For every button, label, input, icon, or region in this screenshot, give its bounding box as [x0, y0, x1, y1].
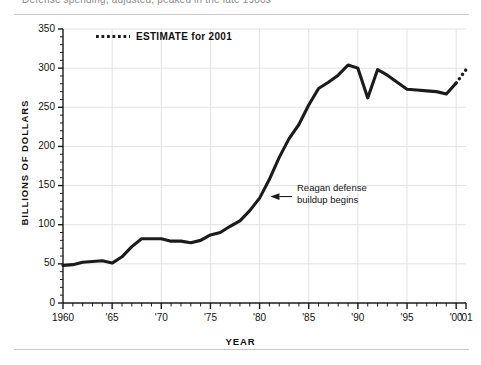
x-tick-label: '85: [289, 312, 329, 323]
gridlines: [63, 29, 466, 303]
y-axis-title: BILLIONS OF DOLLARS: [19, 106, 30, 226]
annotation-line-1: Reagan defense: [297, 182, 367, 194]
y-tick-label: 0: [25, 297, 55, 308]
x-tick-label: 1960: [43, 312, 83, 323]
y-tick-label: 200: [25, 140, 55, 151]
x-tick-label: '95: [387, 312, 427, 323]
legend-label: ESTIMATE for 2001: [136, 31, 232, 42]
annotation-label: Reagan defense buildup begins: [297, 182, 367, 205]
x-tick-label: '75: [190, 312, 230, 323]
x-tick-label: '01: [446, 312, 481, 323]
plot-area: [0, 0, 481, 365]
x-tick-label: '80: [240, 312, 280, 323]
x-tick-label: '90: [338, 312, 378, 323]
x-axis-title: YEAR: [0, 336, 481, 347]
y-tick-label: 50: [25, 257, 55, 268]
y-tick-label: 350: [25, 23, 55, 34]
axes: [63, 29, 466, 303]
axis-ticks: [58, 29, 466, 309]
x-tick-label: '65: [92, 312, 132, 323]
annotation-arrow: [270, 193, 292, 200]
annotation-line-2: buildup begins: [297, 194, 367, 206]
chart-legend: ESTIMATE for 2001: [96, 31, 232, 42]
chart-figure: Defense spending, adjusted, peaked in th…: [0, 0, 481, 365]
x-tick-label: '70: [141, 312, 181, 323]
y-tick-label: 250: [25, 101, 55, 112]
dotted-line-swatch-icon: [96, 35, 130, 38]
bottom-divider: [14, 349, 469, 350]
y-tick-label: 300: [25, 62, 55, 73]
y-tick-label: 150: [25, 179, 55, 190]
data-series: [63, 65, 466, 265]
y-tick-label: 100: [25, 218, 55, 229]
